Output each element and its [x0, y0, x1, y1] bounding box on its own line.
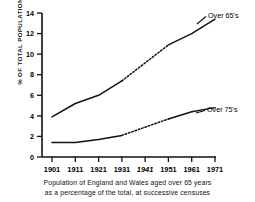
x-tick-label-1951: 1951 — [160, 165, 176, 174]
x-tick-label-1901: 1901 — [44, 165, 60, 174]
y-tick-label-14: 14 — [26, 9, 34, 18]
caption-line-2: as a percentage of the total, at success… — [0, 188, 255, 198]
y-tick-label-10: 10 — [26, 50, 34, 59]
x-tick-label-1961: 1961 — [183, 165, 199, 174]
y-tick-label-6: 6 — [30, 91, 34, 100]
chart-figure: % OF TOTAL POPULATION 0 2 4 6 8 10 12 14 — [0, 0, 255, 202]
series-label-over-65: Over 65's — [208, 11, 239, 20]
caption-line-1: Population of England and Wales aged ove… — [0, 178, 255, 188]
y-tick-label-12: 12 — [26, 29, 34, 38]
figure-caption: Population of England and Wales aged ove… — [0, 178, 255, 197]
y-tick-label-8: 8 — [30, 70, 34, 79]
series-line-over-75-dotted — [122, 119, 169, 135]
x-tick-label-1911: 1911 — [67, 165, 83, 174]
x-tick-label-1931: 1931 — [114, 165, 130, 174]
series-label-leader-over-65 — [197, 17, 206, 25]
series-label-over-75: Over 75's — [207, 105, 238, 114]
x-tick-label-1941: 1941 — [137, 165, 153, 174]
series-line-over-75-solid-early — [52, 135, 122, 142]
series-line-over-65-solid-early — [52, 81, 122, 117]
y-tick-label-4: 4 — [30, 112, 34, 121]
series-line-over-65-dotted — [122, 45, 169, 81]
series-line-over-65-solid-late — [168, 19, 215, 45]
y-tick-label-0: 0 — [30, 153, 34, 162]
x-tick-label-1971: 1971 — [207, 165, 223, 174]
y-tick-label-2: 2 — [30, 132, 34, 141]
line-chart-plot: 0 2 4 6 8 10 12 14 1901 1911 1921 1931 1… — [0, 0, 255, 202]
x-tick-label-1921: 1921 — [90, 165, 106, 174]
